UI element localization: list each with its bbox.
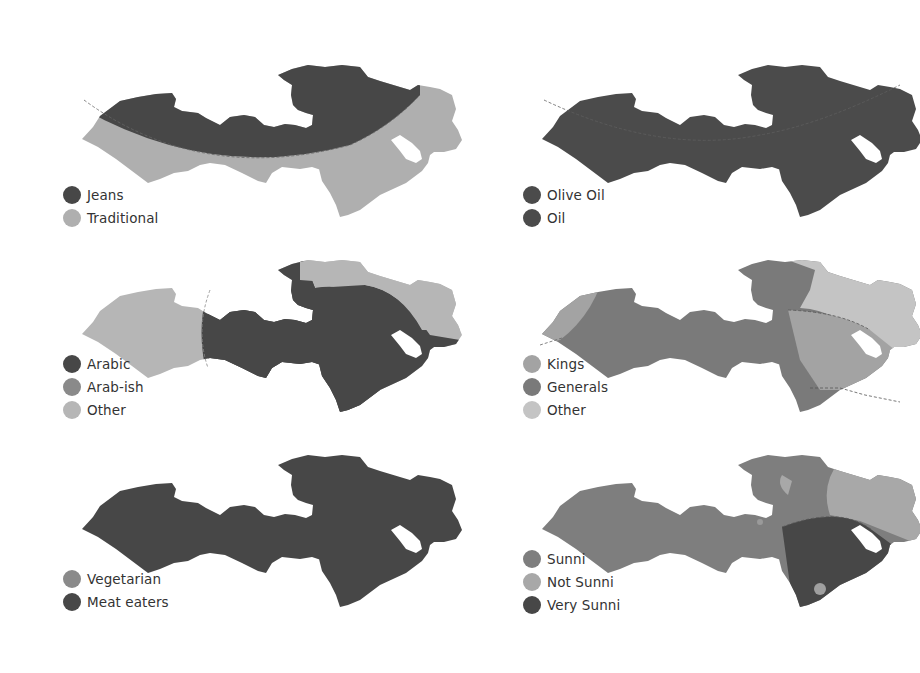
legend-label: Sunni (547, 551, 586, 567)
legend-item-olive-oil: Olive Oil (523, 183, 605, 206)
map-panel-language: Arabic Arab-ish Other (60, 250, 460, 440)
legend-item-generals: Generals (523, 375, 608, 398)
legend-item-vegetarian: Vegetarian (63, 567, 169, 590)
legend-label: Very Sunni (547, 597, 620, 613)
legend-swatch (63, 186, 81, 204)
legend-swatch (63, 209, 81, 227)
map-panel-rulers: Kings Generals Other (520, 250, 920, 440)
legend-swatch (523, 401, 541, 419)
legend-item-sunni: Sunni (523, 547, 620, 570)
legend-item-not-sunni: Not Sunni (523, 570, 620, 593)
legend-item-arabic: Arabic (63, 352, 144, 375)
legend-swatch (523, 355, 541, 373)
legend-item-other: Other (63, 398, 144, 421)
legend-swatch (523, 550, 541, 568)
legend-label: Arabic (87, 356, 130, 372)
legend-label: Meat eaters (87, 594, 169, 610)
map-panel-diet: Vegetarian Meat eaters (60, 445, 460, 635)
legend-item-kings: Kings (523, 352, 608, 375)
legend-item-jeans: Jeans (63, 183, 158, 206)
map-panel-oil: Olive Oil Oil (520, 55, 920, 245)
legend-swatch (63, 378, 81, 396)
legend-label: Vegetarian (87, 571, 161, 587)
legend-clothing: Jeans Traditional (63, 183, 158, 229)
legend-item-oil: Oil (523, 206, 605, 229)
legend-rulers: Kings Generals Other (523, 352, 608, 421)
map-panel-religion: Sunni Not Sunni Very Sunni (520, 445, 920, 635)
legend-item-arab-ish: Arab-ish (63, 375, 144, 398)
legend-oil: Olive Oil Oil (523, 183, 605, 229)
legend-swatch (523, 596, 541, 614)
legend-religion: Sunni Not Sunni Very Sunni (523, 547, 620, 616)
legend-swatch (63, 401, 81, 419)
legend-diet: Vegetarian Meat eaters (63, 567, 169, 613)
legend-swatch (523, 573, 541, 591)
legend-item-very-sunni: Very Sunni (523, 593, 620, 616)
legend-language: Arabic Arab-ish Other (63, 352, 144, 421)
legend-swatch (63, 593, 81, 611)
legend-label: Olive Oil (547, 187, 605, 203)
legend-item-traditional: Traditional (63, 206, 158, 229)
legend-label: Other (87, 402, 126, 418)
legend-swatch (523, 186, 541, 204)
legend-label: Kings (547, 356, 584, 372)
legend-label: Other (547, 402, 586, 418)
legend-label: Generals (547, 379, 608, 395)
legend-label: Jeans (87, 187, 124, 203)
legend-label: Arab-ish (87, 379, 144, 395)
legend-swatch (63, 355, 81, 373)
map-panel-clothing: Jeans Traditional (60, 55, 460, 245)
legend-item-meat-eaters: Meat eaters (63, 590, 169, 613)
legend-swatch (523, 209, 541, 227)
legend-label: Not Sunni (547, 574, 614, 590)
legend-item-other: Other (523, 398, 608, 421)
legend-label: Oil (547, 210, 565, 226)
legend-label: Traditional (87, 210, 158, 226)
legend-swatch (523, 378, 541, 396)
legend-swatch (63, 570, 81, 588)
